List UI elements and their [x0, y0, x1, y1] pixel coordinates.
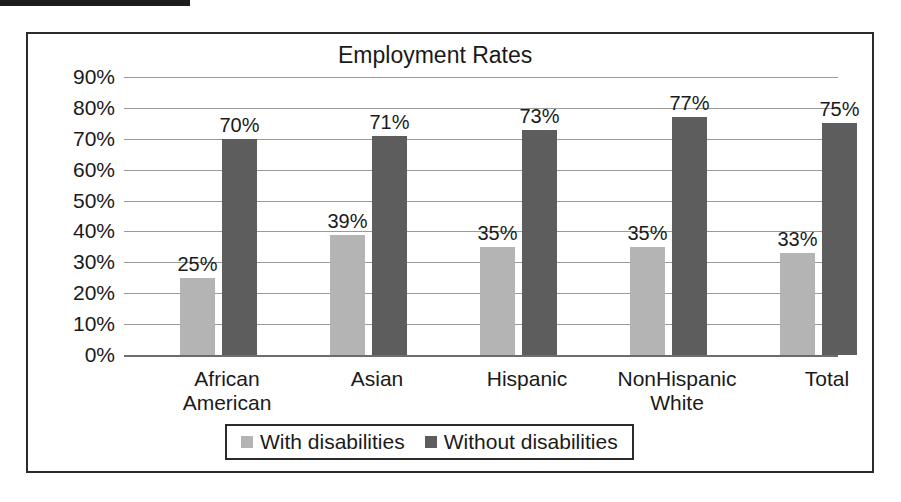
bar-with-disabilities: 35%	[480, 247, 515, 355]
scanned-page: Employment Rates 90%80%70%60%50%40%30%20…	[0, 0, 901, 502]
y-axis-tick-label: 80%	[73, 96, 115, 120]
bar-group: 35%77%NonHispanicWhite	[602, 77, 752, 355]
legend-label: Without disabilities	[444, 430, 618, 454]
x-axis-category-label: Total	[752, 367, 901, 391]
y-axis-tick-label: 0%	[85, 343, 115, 367]
bar-with-disabilities: 25%	[180, 278, 215, 355]
bar-with-disabilities: 35%	[630, 247, 665, 355]
x-axis-category-label: NonHispanicWhite	[602, 367, 752, 414]
gridline-0%	[124, 355, 838, 357]
bar-value-label: 33%	[777, 228, 817, 251]
bar-value-label: 73%	[519, 105, 559, 128]
bar-value-label: 77%	[669, 92, 709, 115]
bar-without-disabilities: 73%	[522, 130, 557, 355]
x-axis-category-line: African	[152, 367, 302, 391]
x-axis-category-line: White	[602, 391, 752, 415]
plot-area: 90%80%70%60%50%40%30%20%10%0%25%70%Afric…	[124, 77, 838, 355]
bar-value-label: 39%	[327, 210, 367, 233]
bar-with-disabilities: 39%	[330, 235, 365, 355]
y-axis-tick-label: 90%	[73, 65, 115, 89]
legend-swatch-icon	[425, 436, 437, 448]
bar-without-disabilities: 77%	[672, 117, 707, 355]
y-axis-tick-label: 20%	[73, 281, 115, 305]
chart-frame: Employment Rates 90%80%70%60%50%40%30%20…	[26, 32, 874, 473]
y-axis-tick-label: 70%	[73, 127, 115, 151]
bar-without-disabilities: 75%	[822, 123, 857, 355]
bar-group: 33%75%Total	[752, 77, 901, 355]
y-axis-tick-label: 50%	[73, 189, 115, 213]
y-axis-tick-label: 10%	[73, 312, 115, 336]
bar-group: 39%71%Asian	[302, 77, 452, 355]
bar-value-label: 70%	[219, 114, 259, 137]
y-axis-tick-label: 40%	[73, 219, 115, 243]
y-axis-tick-label: 30%	[73, 250, 115, 274]
x-axis-category-line: Asian	[302, 367, 452, 391]
legend-label: With disabilities	[260, 430, 405, 454]
bar-value-label: 71%	[369, 111, 409, 134]
bar-group: 25%70%AfricanAmerican	[152, 77, 302, 355]
legend-swatch-icon	[241, 436, 253, 448]
x-axis-category-line: NonHispanic	[602, 367, 752, 391]
bar-without-disabilities: 71%	[372, 136, 407, 355]
y-axis-tick-label: 60%	[73, 158, 115, 182]
bar-value-label: 75%	[819, 98, 859, 121]
bar-with-disabilities: 33%	[780, 253, 815, 355]
x-axis-category-line: Total	[752, 367, 901, 391]
bar-without-disabilities: 70%	[222, 139, 257, 355]
redaction-bar	[0, 0, 190, 6]
x-axis-category-line: American	[152, 391, 302, 415]
x-axis-category-label: Asian	[302, 367, 452, 391]
legend-item[interactable]: Without disabilities	[425, 430, 618, 454]
bar-value-label: 35%	[627, 222, 667, 245]
x-axis-category-label: Hispanic	[452, 367, 602, 391]
bar-value-label: 25%	[177, 253, 217, 276]
chart-legend: With disabilitiesWithout disabilities	[225, 424, 634, 460]
x-axis-category-line: Hispanic	[452, 367, 602, 391]
x-axis-category-label: AfricanAmerican	[152, 367, 302, 414]
bar-value-label: 35%	[477, 222, 517, 245]
legend-item[interactable]: With disabilities	[241, 430, 405, 454]
bar-group: 35%73%Hispanic	[452, 77, 602, 355]
chart-title: Employment Rates	[338, 42, 532, 69]
